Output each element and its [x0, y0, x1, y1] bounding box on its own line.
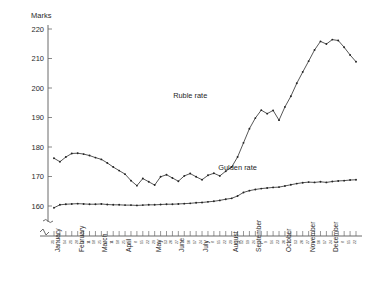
data-point [59, 161, 61, 163]
x-axis-month-label: May [155, 239, 163, 252]
data-point [284, 185, 286, 187]
series-line-gulden [54, 180, 356, 208]
x-axis-day-label: 18 [92, 240, 96, 244]
x-axis-day-label: 10 [187, 240, 191, 244]
y-axis: 160170180190200210220 [31, 25, 53, 223]
data-point [213, 172, 215, 174]
y-axis-tick-label: 220 [31, 25, 44, 34]
y-axis-tick-label: 190 [31, 113, 44, 122]
data-point [189, 202, 191, 204]
data-point [260, 109, 262, 111]
x-axis-month-label: June [178, 237, 185, 252]
data-point [189, 173, 191, 175]
data-point [160, 176, 162, 178]
x-axis-month-label: July [202, 240, 210, 252]
x-axis-day-label: 20 [300, 240, 304, 244]
x-axis-day-label: 8 [134, 241, 138, 243]
data-point [296, 82, 298, 84]
x-axis-day-label: 14 [63, 240, 67, 244]
x-axis-day-label: 11 [87, 240, 91, 244]
y-axis-tick-label: 200 [31, 84, 44, 93]
data-point [225, 198, 227, 200]
data-point [106, 162, 108, 164]
data-point [254, 117, 256, 119]
data-point [243, 142, 245, 144]
data-point [53, 157, 55, 159]
x-axis-day-label: 15 [217, 240, 221, 244]
x-axis-month-label: November [309, 221, 316, 252]
data-point [77, 203, 79, 205]
x-axis-month-label: September [255, 219, 263, 252]
data-point [154, 204, 156, 206]
data-point [59, 204, 61, 206]
x-axis-day-label: 16 [270, 240, 274, 244]
data-point [160, 204, 162, 206]
data-point [112, 166, 114, 168]
data-point [183, 175, 185, 177]
data-point [320, 181, 322, 183]
data-point [130, 204, 132, 206]
x-axis-month-label: August [232, 231, 240, 252]
x-axis-day-label: 18 [116, 240, 120, 244]
data-point [171, 203, 173, 205]
data-point [219, 175, 221, 177]
data-point [237, 156, 239, 158]
data-point [201, 202, 203, 204]
data-point [337, 180, 339, 182]
data-point [100, 158, 102, 160]
data-point [290, 95, 292, 97]
data-point [195, 176, 197, 178]
data-point [83, 153, 85, 155]
data-point [308, 60, 310, 62]
chart-container: Marks 160170180190200210220 317142128411… [0, 0, 370, 296]
x-axis-day-label: 8 [341, 241, 345, 243]
y-axis-tick-label: 210 [31, 54, 44, 63]
x-axis-day-label: 22 [146, 240, 150, 244]
data-point [201, 179, 203, 181]
x-axis-day-label: 13 [164, 240, 168, 244]
data-point [284, 106, 286, 108]
data-point [118, 170, 120, 172]
data-point [237, 195, 239, 197]
data-point [231, 197, 233, 199]
data-point [148, 204, 150, 206]
data-point [124, 173, 126, 175]
x-axis-day-label: 15 [140, 240, 144, 244]
data-point [325, 181, 327, 183]
data-point [355, 179, 357, 181]
data-point [302, 182, 304, 184]
x-axis-day-label: 20 [169, 240, 173, 244]
x-axis-break-icon [40, 229, 49, 235]
data-point [95, 203, 97, 205]
series-annotations: Ruble rateGulden rate [173, 91, 257, 172]
x-axis-day-label: 23 [276, 240, 280, 244]
series-label-ruble: Ruble rate [173, 91, 207, 100]
series-layer [53, 39, 357, 209]
data-point [260, 188, 262, 190]
y-axis-tick-label: 160 [31, 202, 44, 211]
data-point [314, 49, 316, 51]
data-point [166, 203, 168, 205]
series-label-gulden: Gulden rate [218, 163, 257, 172]
x-axis-day-label: 19 [246, 240, 250, 244]
data-point [148, 181, 150, 183]
data-point [95, 157, 97, 159]
data-point [83, 203, 85, 205]
x-axis-day-label: 17 [193, 240, 197, 244]
data-point [302, 71, 304, 73]
data-point [278, 186, 280, 188]
data-point [248, 190, 250, 192]
x-axis-month-label: April [125, 238, 133, 252]
x-axis-day-label: 22 [223, 240, 227, 244]
data-point [53, 207, 55, 209]
data-point [207, 201, 209, 203]
data-point [337, 40, 339, 42]
data-point [112, 204, 114, 206]
data-point [254, 189, 256, 191]
data-point [130, 180, 132, 182]
data-point [195, 202, 197, 204]
data-point [272, 186, 274, 188]
data-point [77, 152, 79, 154]
data-point [320, 40, 322, 42]
data-point [154, 184, 156, 186]
